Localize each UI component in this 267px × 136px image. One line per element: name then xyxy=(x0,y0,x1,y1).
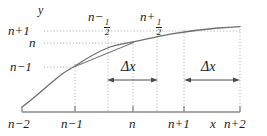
y-tick-label-n: n xyxy=(29,36,36,49)
delta-x-label-left: Δx xyxy=(121,60,135,74)
delta-x-arrow-right xyxy=(184,77,240,82)
x-tick-label-n: n xyxy=(129,117,136,130)
math-figure: y x n+1 n n−1 n−12 n+12 Δx Δx n−2 n−1 n … xyxy=(0,0,267,136)
top-label-n-plus-half: n+12 xyxy=(140,10,162,38)
fraction-one-half-left: 12 xyxy=(104,18,111,38)
top-label-n-minus-half: n−12 xyxy=(88,10,110,38)
x-tick-label-n-plus-1: n+1 xyxy=(168,117,190,130)
x-tick-label-n-plus-2: n+2 xyxy=(224,117,246,130)
delta-x-arrow-right-head-start xyxy=(184,77,191,82)
fraction-denominator: 2 xyxy=(156,27,163,37)
top-label-n-minus-half-base: n− xyxy=(88,10,103,23)
delta-x-label-right: Δx xyxy=(201,60,215,74)
x-axis xyxy=(22,106,240,112)
x-tick-label-n-minus-1: n−1 xyxy=(61,117,83,130)
y-tick-label-n-minus-1: n−1 xyxy=(10,60,32,73)
y-tick-label-n-plus-1: n+1 xyxy=(8,24,30,37)
x-tick-label-n-minus-2: n−2 xyxy=(8,117,30,130)
top-label-n-plus-half-base: n+ xyxy=(140,10,155,23)
fraction-one-half-right: 12 xyxy=(156,18,163,38)
y-axis-label: y xyxy=(38,4,43,16)
delta-x-arrow-left xyxy=(107,77,158,82)
fraction-denominator: 2 xyxy=(104,27,111,37)
fraction-numerator: 1 xyxy=(104,18,111,27)
fraction-numerator: 1 xyxy=(156,18,163,27)
delta-x-arrow-right-head-end xyxy=(233,77,240,82)
x-axis-label: x xyxy=(210,117,216,130)
